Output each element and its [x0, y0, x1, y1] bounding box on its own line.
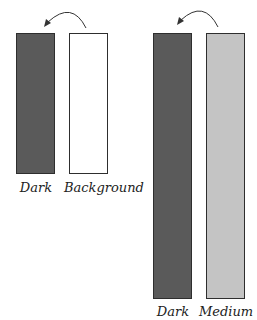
medium-label: Medium: [196, 304, 256, 319]
dark-label: Dark: [143, 304, 203, 319]
medium-bar: [206, 33, 245, 299]
dark-bar: [153, 33, 192, 299]
